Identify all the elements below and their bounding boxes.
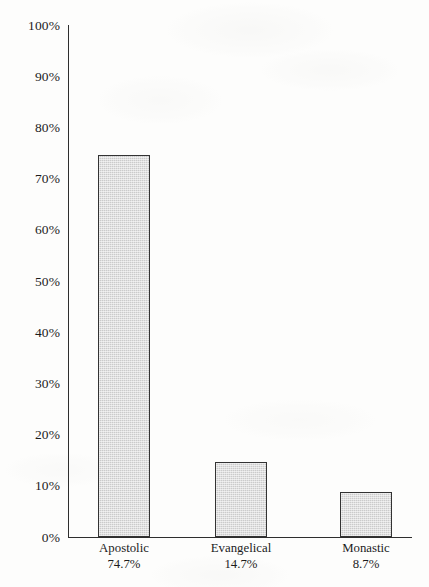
y-axis-tick-labels: 100%90%80%70%60%50%40%30%20%10%0% (0, 25, 60, 537)
y-axis-tick-label: 20% (2, 428, 60, 442)
bar-apostolic (98, 155, 150, 537)
bars-layer (68, 25, 412, 537)
y-axis-tick-label: 90% (2, 70, 60, 84)
category-value: 14.7% (181, 557, 301, 573)
category-name: Monastic (306, 541, 426, 557)
category-value: 8.7% (306, 557, 426, 573)
y-axis-tick-label: 80% (2, 121, 60, 135)
y-axis-tick-label: 100% (2, 19, 60, 33)
plot-area (68, 25, 412, 537)
y-axis-tick-label: 0% (2, 531, 60, 545)
x-axis-line (68, 537, 412, 538)
bar-evangelical (215, 462, 267, 537)
bar-chart-figure: 100%90%80%70%60%50%40%30%20%10%0% Aposto… (0, 0, 429, 587)
y-axis-tick-label: 50% (2, 275, 60, 289)
x-axis-label-evangelical: Evangelical14.7% (181, 541, 301, 572)
category-value: 74.7% (64, 557, 184, 573)
y-axis-tick-label: 70% (2, 172, 60, 186)
x-axis-label-apostolic: Apostolic74.7% (64, 541, 184, 572)
category-name: Evangelical (181, 541, 301, 557)
y-axis-tick-label: 60% (2, 223, 60, 237)
y-axis-tick-label: 10% (2, 479, 60, 493)
y-axis-tick-label: 40% (2, 326, 60, 340)
y-axis-tick-label: 30% (2, 377, 60, 391)
x-axis-category-labels: Apostolic74.7%Evangelical14.7%Monastic8.… (68, 541, 412, 581)
x-axis-label-monastic: Monastic8.7% (306, 541, 426, 572)
category-name: Apostolic (64, 541, 184, 557)
bar-monastic (340, 492, 392, 537)
